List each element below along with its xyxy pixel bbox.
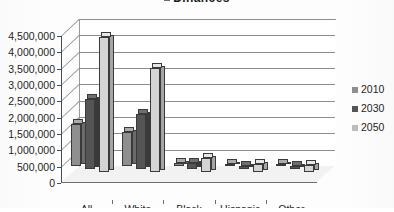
gridline [79, 101, 335, 102]
bar-side-face [132, 130, 137, 164]
bar-side-face [211, 156, 216, 170]
bar-front-face [239, 166, 249, 170]
bar-front-face [174, 163, 184, 166]
y-tick-label: 2,500,000 [8, 95, 55, 107]
bar-side-face [146, 112, 151, 168]
legend-label-2010: 2010 [361, 84, 384, 95]
legend-item-2050[interactable]: 2050 [352, 122, 394, 133]
y-tick-label: 500,000 [17, 161, 55, 173]
gridline-depth-connector [61, 84, 80, 102]
bar-hispanic-2030[interactable] [239, 166, 249, 170]
bar-white-2010[interactable] [122, 132, 132, 166]
y-tick-label: 1,500,000 [8, 128, 55, 140]
y-tick-label: 0 [49, 177, 55, 189]
y-tick-label: 3,000,000 [8, 79, 55, 91]
bar-side-face [160, 66, 165, 171]
bar-hispanic-2050[interactable] [253, 164, 263, 173]
legend-label-2050: 2050 [361, 122, 384, 133]
bar-front-face [201, 158, 211, 172]
x-tick-mark [266, 200, 267, 204]
bar-front-face [71, 124, 81, 166]
bar-front-face [290, 166, 300, 170]
bar-front-face [99, 37, 109, 173]
y-tick-label: 3,500,000 [8, 63, 55, 75]
gridline [79, 52, 335, 53]
gridline-depth-connector [61, 52, 80, 70]
y-tick-label: 2,000,000 [8, 112, 55, 124]
legend-label-2030: 2030 [361, 103, 384, 114]
bar-front-face [253, 164, 263, 173]
y-tick-label: 4,500,000 [8, 30, 55, 42]
gridline [79, 133, 335, 134]
bar-black-2010[interactable] [174, 163, 184, 166]
bar-other-2050[interactable] [304, 165, 314, 173]
gridline [79, 117, 335, 118]
y-tick-mark [57, 183, 61, 184]
bar-black-2050[interactable] [201, 158, 211, 172]
x-tick-mark [112, 200, 113, 204]
bar-white-2050[interactable] [150, 68, 160, 173]
bar-front-face [150, 68, 160, 173]
chart-legend: 2010 2030 2050 [352, 84, 394, 141]
gridline [79, 84, 335, 85]
bar-front-face [136, 114, 146, 170]
x-tick-mark [215, 200, 216, 204]
bar-front-face [276, 164, 286, 166]
legend-swatch-2010 [352, 87, 358, 93]
bar-front-face [187, 163, 197, 170]
title-marker-icon [164, 0, 170, 1]
legend-item-2030[interactable]: 2030 [352, 103, 394, 114]
y-tick-label: 1,000,000 [8, 144, 55, 156]
bar-all-2010[interactable] [71, 124, 81, 166]
chart-plot-area: 0500,0001,000,0001,500,0002,000,0002,500… [61, 19, 335, 183]
bar-side-face [81, 122, 86, 164]
bar-all-2050[interactable] [99, 37, 109, 173]
y-axis-line [61, 36, 62, 183]
gridline-depth-connector [61, 35, 80, 53]
legend-swatch-2030 [352, 106, 358, 112]
bar-hispanic-2010[interactable] [225, 164, 235, 166]
bar-all-2030[interactable] [85, 99, 95, 169]
bar-side-face [109, 35, 114, 171]
gridline [79, 35, 335, 36]
bar-side-face [95, 97, 100, 167]
gridline-depth-connector [61, 68, 80, 86]
chart-title-text: Dinances [173, 0, 230, 2]
gridline [79, 68, 335, 69]
bar-front-face [304, 165, 314, 173]
x-tick-mark [163, 200, 164, 204]
page-title: Dinances [0, 0, 394, 2]
bar-white-2030[interactable] [136, 114, 146, 170]
chart-screenshot: { "chart_data": { "type": "bar", "title"… [0, 0, 394, 212]
legend-swatch-2050 [352, 125, 358, 131]
bar-other-2030[interactable] [290, 166, 300, 170]
y-tick-label: 4,000,000 [8, 46, 55, 58]
legend-item-2010[interactable]: 2010 [352, 84, 394, 95]
bar-front-face [122, 132, 132, 166]
gridline [79, 150, 335, 151]
bar-front-face [225, 164, 235, 166]
gridline [79, 19, 335, 20]
gridline-depth-connector [61, 101, 80, 119]
plot-back-wall [79, 19, 336, 167]
bar-black-2030[interactable] [187, 163, 197, 170]
floor-front-edge [61, 182, 317, 183]
page-bottom-margin [0, 208, 394, 212]
bar-front-face [85, 99, 95, 169]
bar-other-2010[interactable] [276, 164, 286, 166]
gridline-depth-connector [61, 19, 80, 37]
